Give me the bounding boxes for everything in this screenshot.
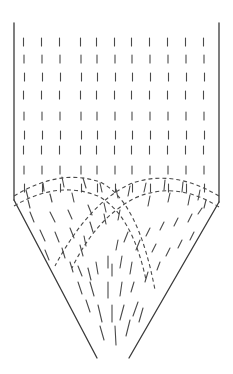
hopper-dash: [86, 300, 90, 312]
arc-tick: [83, 178, 86, 188]
arc-tick: [26, 190, 28, 198]
hopper-dash: [78, 282, 82, 294]
arc-tick: [198, 190, 200, 200]
arc-tick: [164, 180, 165, 190]
hopper-dash: [50, 212, 55, 222]
transition-arcs: [14, 177, 219, 290]
arc-tick: [43, 183, 44, 191]
hopper-dash: [188, 214, 192, 222]
hopper-dash: [130, 262, 132, 274]
hopper-dash: [198, 208, 202, 214]
hopper-dash: [120, 282, 122, 296]
hopper-dash: [116, 240, 118, 250]
hopper-dash: [88, 205, 92, 215]
left-hopper-wall: [14, 200, 97, 358]
arc-tick: [148, 196, 150, 206]
hopper-dash: [126, 320, 130, 336]
hopper-dash: [136, 240, 140, 250]
hopper-dash: [139, 308, 143, 322]
arc-tick: [204, 200, 206, 208]
hopper-dash: [100, 326, 104, 340]
hopper-dash: [98, 305, 102, 322]
hopper-dash: [166, 248, 170, 256]
hopper-dash: [80, 245, 83, 256]
hopper-dash: [78, 266, 82, 276]
hopper-dash: [30, 212, 34, 222]
hopper-dash: [115, 326, 116, 345]
right-outer-arc: [55, 178, 219, 266]
hopper-dash: [40, 230, 45, 241]
hopper-dash: [152, 244, 156, 252]
hopper-dash: [96, 262, 98, 274]
hopper-flow-diagram: [0, 0, 233, 374]
arc-tick: [144, 183, 146, 192]
hopper-dash: [133, 302, 138, 316]
hopper-dash: [104, 214, 106, 224]
arc-tick: [168, 193, 170, 202]
right-inner-arc: [72, 191, 219, 268]
hopper-dash: [146, 228, 150, 236]
hopper-dash: [70, 228, 74, 238]
left-outer-arc: [14, 177, 155, 290]
hopper-dash: [120, 305, 124, 320]
hopper-dash: [45, 250, 49, 260]
arc-tick: [188, 195, 190, 205]
hopper-dash: [68, 210, 72, 219]
arc-tick: [182, 182, 183, 192]
arc-tick: [72, 193, 74, 202]
arc-tick: [50, 194, 52, 202]
hopper-dash: [157, 262, 160, 270]
arc-tick: [128, 186, 130, 196]
hopper-dash: [178, 240, 182, 248]
arc-tick: [62, 177, 64, 187]
hopper-dash: [55, 232, 59, 242]
arc-tick-marks: [26, 177, 206, 212]
hopper-dash: [124, 232, 128, 242]
arc-tick: [28, 200, 30, 208]
hopper-dash: [90, 222, 93, 232]
hopper-dash: [174, 218, 178, 226]
vertical-flow-lines: [24, 38, 205, 192]
hopper-dash: [160, 222, 164, 230]
hopper-dash: [190, 232, 194, 240]
hopper-dash: [118, 210, 120, 220]
arc-tick: [100, 183, 102, 192]
hopper-dash: [120, 256, 122, 268]
hopper-dash: [131, 282, 134, 292]
hopper-dash: [88, 268, 91, 280]
hopper-dash: [90, 282, 94, 296]
arc-tick: [104, 203, 106, 212]
